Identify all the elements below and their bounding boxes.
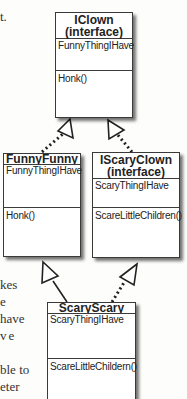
class-header: IClown (interface) xyxy=(56,13,132,39)
side-text-top: t. xyxy=(0,8,7,25)
class-stereotype: (interface) xyxy=(56,26,132,38)
side-text-line: have xyxy=(0,310,29,327)
class-name: ScaryScary xyxy=(48,303,135,314)
class-fields: ScaryThingIHave xyxy=(48,314,135,359)
realization-arrow-funnyfunny-iclown xyxy=(42,119,73,152)
method: ScareLittleChildern() xyxy=(50,361,135,373)
side-text-line: ve xyxy=(0,327,29,344)
field: FunnyThingIHave xyxy=(58,40,132,52)
field: FunnyThingIHave xyxy=(6,165,80,177)
class-name: FunnyFunny xyxy=(4,154,80,165)
class-box-iscaryclown[interactable]: IScaryClown (interface) ScaryThingIHave … xyxy=(92,152,180,258)
inheritance-arrow-scaryscary-funnyfunny xyxy=(42,262,67,302)
class-stereotype: (interface) xyxy=(93,166,179,178)
uml-diagram-canvas: t. kes e have ve ble to eter xyxy=(0,0,187,399)
class-fields: ScaryThingIHave xyxy=(93,179,179,208)
side-text-block: kes e have ve ble to eter xyxy=(0,276,29,395)
field: ScaryThingIHave xyxy=(50,314,135,326)
realization-arrow-scaryscary-iscaryclown xyxy=(112,264,137,302)
method: Honk() xyxy=(6,210,80,222)
class-fields: FunnyThingIHave xyxy=(56,39,132,71)
class-header: ScaryScary xyxy=(48,303,135,314)
class-methods: ScareLittleChildren() xyxy=(93,208,179,222)
class-box-funnyfunny[interactable]: FunnyFunny FunnyThingIHave Honk() xyxy=(3,153,81,257)
side-text-line xyxy=(0,344,29,361)
field: ScaryThingIHave xyxy=(95,180,179,192)
side-text-line: e xyxy=(0,293,29,310)
side-text-line: ble to xyxy=(0,361,29,378)
class-methods: Honk() xyxy=(56,71,132,85)
class-fields: FunnyThingIHave xyxy=(4,165,80,208)
realization-arrow-iscaryclown-iclown xyxy=(108,120,132,152)
class-box-iclown[interactable]: IClown (interface) FunnyThingIHave Honk(… xyxy=(55,12,133,118)
class-header: IScaryClown (interface) xyxy=(93,153,179,179)
class-methods: ScareLittleChildern() xyxy=(48,359,135,373)
class-header: FunnyFunny xyxy=(4,154,80,165)
method: Honk() xyxy=(58,73,132,85)
method: ScareLittleChildren() xyxy=(95,210,179,222)
side-text-line: kes xyxy=(0,276,29,293)
side-text-line: eter xyxy=(0,378,29,395)
class-box-scaryscary[interactable]: ScaryScary ScaryThingIHave ScareLittleCh… xyxy=(47,302,136,399)
class-methods: Honk() xyxy=(4,208,80,222)
